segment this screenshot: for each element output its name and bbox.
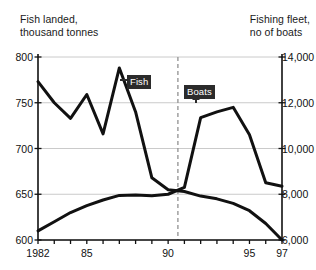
series-line-fish bbox=[38, 68, 282, 240]
series-line-boats bbox=[38, 107, 282, 231]
boats-series-callout: Boats bbox=[184, 85, 215, 99]
plot-area bbox=[0, 0, 316, 270]
fish-and-fleet-chart: Fish landed, thousand tonnes Fishing fle… bbox=[0, 0, 316, 270]
fish-series-callout: Fish bbox=[127, 75, 151, 89]
